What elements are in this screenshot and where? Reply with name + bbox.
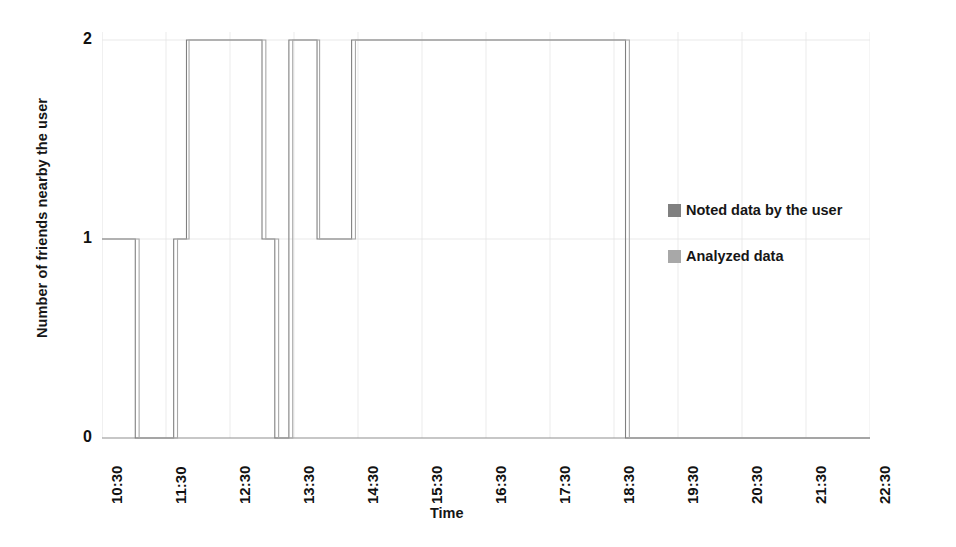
legend-item[interactable]: Analyzed data [668, 246, 918, 266]
chart-legend: Noted data by the userAnalyzed data [668, 200, 918, 292]
x-tick-label: 22:30 [876, 466, 893, 504]
x-axis-title: Time [430, 505, 464, 521]
x-tick-label: 13:30 [300, 466, 317, 504]
x-tick-label: 18:30 [620, 466, 637, 504]
legend-item-label: Noted data by the user [686, 202, 842, 218]
x-tick-label: 21:30 [812, 466, 829, 504]
x-tick-label: 16:30 [492, 466, 509, 504]
legend-item-label: Analyzed data [686, 248, 784, 264]
x-tick-label: 14:30 [364, 466, 381, 504]
x-tick-label: 11:30 [172, 466, 189, 504]
x-tick-label: 19:30 [684, 466, 701, 504]
x-tick-label: 10:30 [108, 466, 125, 504]
x-tick-label: 12:30 [236, 466, 253, 504]
legend-swatch-icon [668, 250, 681, 263]
chart-container: Number of friends nearby the user 012 10… [0, 0, 956, 547]
x-tick-label: 15:30 [428, 466, 445, 504]
x-tick-label: 17:30 [556, 466, 573, 504]
x-tick-label: 20:30 [748, 466, 765, 504]
legend-item[interactable]: Noted data by the user [668, 200, 918, 220]
legend-swatch-icon [668, 204, 681, 217]
